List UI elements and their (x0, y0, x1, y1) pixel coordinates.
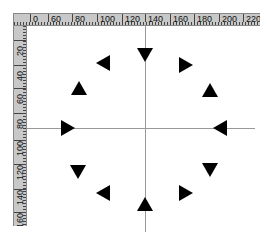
ruler-label: 40 (15, 71, 25, 81)
triangle-left-icon[interactable] (213, 120, 227, 136)
ruler-label: 60 (48, 14, 61, 22)
triangle-left-icon[interactable] (96, 185, 110, 201)
triangle-left-icon[interactable] (96, 55, 110, 71)
triangle-down-icon[interactable] (70, 165, 86, 179)
ruler-label: 180 (194, 14, 212, 22)
ruler-label: 120 (122, 14, 140, 22)
ruler-label: 0 (30, 14, 38, 22)
triangle-up-icon[interactable] (71, 81, 87, 95)
triangle-down-icon[interactable] (202, 163, 218, 177)
ruler-major-tick (14, 65, 26, 66)
ruler-label: 160 (170, 14, 188, 22)
triangle-up-icon[interactable] (137, 197, 153, 211)
ruler-label: 20 (15, 46, 25, 56)
triangle-right-icon[interactable] (61, 120, 75, 136)
triangle-up-icon[interactable] (202, 83, 218, 97)
ruler-major-tick (14, 113, 26, 114)
horizontal-ruler[interactable]: 06080100120140160180200220 (14, 13, 260, 26)
triangle-right-icon[interactable] (179, 185, 193, 201)
vertical-ruler[interactable]: 20406080100120140160180 (13, 26, 27, 226)
ruler-major-tick (14, 40, 26, 41)
ruler-major-tick (14, 88, 26, 89)
ruler-label: 140 (145, 14, 163, 22)
triangle-right-icon[interactable] (179, 57, 193, 73)
ruler-label: 120 (15, 165, 25, 180)
ruler-label: 100 (97, 14, 115, 22)
ruler-label: 80 (72, 14, 85, 22)
ruler-label: 140 (15, 190, 25, 205)
ruler-label: 200 (219, 14, 237, 22)
triangle-down-icon[interactable] (137, 48, 153, 62)
ruler-label: 80 (15, 119, 25, 129)
ruler-label: 100 (15, 141, 25, 156)
ruler-label: 160 (15, 213, 25, 226)
ruler-label: 220 (243, 14, 260, 22)
ruler-label: 60 (15, 94, 25, 104)
